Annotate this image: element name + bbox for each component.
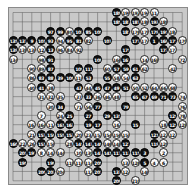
black-stone: 135 — [9, 36, 18, 45]
white-stone: 89 — [37, 64, 46, 73]
white-stone: 30 — [46, 102, 55, 111]
black-stone: 69 — [150, 92, 159, 101]
white-stone: 170 — [178, 36, 187, 45]
white-stone: 22 — [18, 139, 27, 148]
black-stone: 149 — [93, 139, 102, 148]
black-stone: 207 — [93, 167, 102, 176]
black-stone: 34 — [56, 102, 65, 111]
white-stone: 132 — [121, 158, 130, 167]
white-stone: 6 — [159, 158, 168, 167]
white-stone: 116 — [74, 158, 83, 167]
black-stone: 108 — [93, 55, 102, 64]
black-stone: 161 — [56, 120, 65, 129]
black-stone: 115 — [131, 148, 140, 157]
black-stone: 147 — [84, 139, 93, 148]
black-stone: 111 — [84, 64, 93, 73]
black-stone: 71 — [159, 92, 168, 101]
black-stone: 131 — [112, 111, 121, 120]
white-stone: 4 — [150, 158, 159, 167]
white-stone: 156 — [112, 130, 121, 139]
black-stone: 27 — [84, 111, 93, 120]
black-stone: 139 — [9, 45, 18, 54]
white-stone: 152 — [93, 130, 102, 139]
black-stone: 107 — [103, 36, 112, 45]
white-stone: 50 — [131, 83, 140, 92]
white-stone: 56 — [84, 102, 93, 111]
black-stone: 79 — [121, 102, 130, 111]
black-stone: 137 — [18, 36, 27, 45]
black-stone: 177 — [131, 36, 140, 45]
white-stone: 60 — [103, 64, 112, 73]
black-stone: 205 — [93, 158, 102, 167]
black-stone: 41 — [37, 83, 46, 92]
go-board[interactable]: 1891901921941118518318718619318897998010… — [8, 7, 188, 185]
white-stone: 71 — [74, 102, 83, 111]
black-stone: 141 — [103, 148, 112, 157]
black-stone: 159 — [46, 130, 55, 139]
white-stone: 144 — [56, 148, 65, 157]
white-stone: 146 — [103, 139, 112, 148]
black-stone: 191 — [159, 27, 168, 36]
white-stone: 24 — [56, 111, 65, 120]
white-stone: 192 — [131, 8, 140, 17]
white-stone: 23 — [84, 130, 93, 139]
white-stone: 112 — [84, 167, 93, 176]
black-stone: 99 — [56, 27, 65, 36]
black-stone: 105 — [93, 27, 102, 36]
white-stone: 118 — [65, 158, 74, 167]
black-stone: 187 — [131, 17, 140, 26]
white-stone: 128 — [178, 120, 187, 129]
black-stone: 203 — [46, 167, 55, 176]
black-stone: 65 — [131, 92, 140, 101]
white-stone: 72 — [178, 55, 187, 64]
black-stone: 5 — [140, 158, 149, 167]
white-stone: 21 — [27, 130, 36, 139]
black-stone: 61 — [131, 64, 140, 73]
white-stone: 130 — [84, 148, 93, 157]
white-stone: 8 — [37, 148, 46, 157]
black-stone: 39 — [56, 73, 65, 82]
black-stone: 47 — [103, 83, 112, 92]
white-stone: 98 — [37, 55, 46, 64]
white-stone: 123 — [168, 130, 177, 139]
black-stone: 25 — [65, 111, 74, 120]
white-stone: 120 — [159, 139, 168, 148]
white-stone: 48 — [112, 92, 121, 101]
white-stone: 94 — [56, 36, 65, 45]
black-stone: 45 — [93, 83, 102, 92]
black-stone: 155 — [56, 130, 65, 139]
white-stone: 168 — [150, 55, 159, 64]
black-stone: 153 — [65, 130, 74, 139]
black-stone: 57 — [112, 64, 121, 73]
black-stone: 119 — [150, 139, 159, 148]
black-stone: 29 — [103, 111, 112, 120]
white-stone: 82 — [84, 36, 93, 45]
black-stone: 200 — [37, 167, 46, 176]
white-stone: 31 — [37, 92, 46, 101]
black-stone: 193 — [150, 17, 159, 26]
black-stone: 181 — [121, 27, 130, 36]
black-stone: 195 — [18, 158, 27, 167]
black-stone: 189 — [112, 8, 121, 17]
white-stone: 158 — [121, 130, 130, 139]
white-stone: 28 — [65, 139, 74, 148]
black-stone: 160 — [9, 139, 18, 148]
white-stone: 178 — [140, 27, 149, 36]
white-stone: 164 — [37, 120, 46, 129]
black-stone: 101 — [37, 36, 46, 45]
black-stone: 19 — [84, 120, 93, 129]
white-stone: 96 — [56, 45, 65, 54]
black-stone: 199 — [46, 158, 55, 167]
white-stone: 74 — [178, 92, 187, 101]
white-stone: 78 — [178, 111, 187, 120]
white-stone: 7 — [37, 111, 46, 120]
white-stone: 64 — [150, 83, 159, 92]
white-stone: 38 — [46, 83, 55, 92]
black-stone: 77 — [93, 102, 102, 111]
black-stone: 157 — [37, 130, 46, 139]
white-stone: 184 — [168, 27, 177, 36]
white-stone: 76 — [178, 102, 187, 111]
white-stone: 114 — [84, 158, 93, 167]
black-stone: 151 — [37, 139, 46, 148]
black-stone: 103 — [74, 27, 83, 36]
